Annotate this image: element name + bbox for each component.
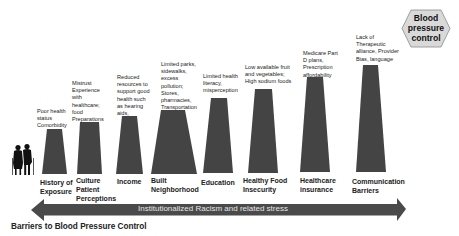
diagram-title: Barriers to Blood Pressure Control [11,222,147,231]
label-built-neighborhood: Built Neighborhood [151,176,199,194]
label-education: Education [201,178,235,187]
label-culture-patient-perceptions: Culture Patient Perceptions [76,176,116,203]
desc-built-neighborhood: Limited parks, sidewalks, excess polluti… [161,61,197,111]
label-history-of-exposure: History of Exposure [40,178,73,196]
arrow-label: Institutionalized Racism and related str… [0,204,426,214]
desc-healthy-food-insecurity: Low available fruit and vegetables; High… [245,64,291,86]
pillar-communication-barriers [356,65,386,172]
pillar-healthy-food-insecurity [248,89,278,173]
pillar-education [203,98,233,173]
goal-label: Blood pressure control [402,13,450,43]
pillar-history-of-exposure [42,129,67,174]
pillar-built-neighborhood [151,110,197,174]
desc-communication-barriers: Lack of Therapeutic alliance, Provider B… [356,34,399,63]
pillar-healthcare-insurance [300,77,330,172]
pillar-income [116,116,143,174]
label-healthcare-insurance: Healthcare insurance [300,176,336,194]
desc-culture-patient-perceptions: Mistrust Experience with healthcare; foo… [72,80,104,123]
desc-healthcare-insurance: Medicare Part D plans, Prescription affo… [303,50,338,79]
pillar-culture-patient-perceptions [77,122,102,174]
desc-education: Limited health literacy, misperception [203,73,238,95]
label-communication-barriers: Communication Barriers [352,177,405,195]
desc-income: Reduced resources to support good health… [117,74,150,117]
desc-history-of-exposure: Poor health status Comorbidity [37,108,67,130]
label-healthy-food-insecurity: Healthy Food Insecurity [243,176,287,194]
elderly-couple-icon [12,144,34,175]
label-income: Income [117,177,142,186]
